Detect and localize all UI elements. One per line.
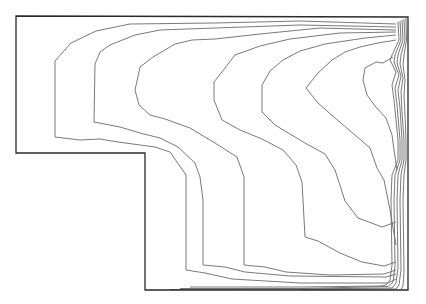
contour-plot <box>0 0 426 304</box>
contour-line <box>190 22 399 287</box>
contour-line <box>94 25 396 277</box>
contour-line <box>363 57 397 170</box>
contour-line <box>170 20 403 290</box>
contour-line <box>55 21 396 283</box>
contour-lines <box>55 18 407 290</box>
contour-line <box>214 32 396 266</box>
contour-line <box>180 21 401 289</box>
contour-line <box>306 40 396 245</box>
contour-line <box>262 35 396 227</box>
contour-line <box>135 28 396 275</box>
domain-boundary <box>16 16 408 290</box>
